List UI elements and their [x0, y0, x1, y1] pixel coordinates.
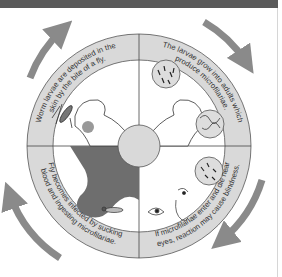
adult-worms-magnified-icon [196, 110, 224, 138]
microfilariae-magnified-icon [152, 60, 180, 88]
life-cycle-diagram: Worm larvae are deposited in the skin by… [0, 0, 282, 277]
center-circle [118, 125, 160, 167]
arrow-top-right-icon [204, 22, 246, 62]
bite-mark-icon [82, 121, 94, 133]
